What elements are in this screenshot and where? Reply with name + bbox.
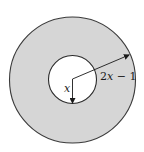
outer-radius-label: 2x − 1: [100, 71, 136, 82]
inner-radius-label: x: [64, 83, 70, 94]
